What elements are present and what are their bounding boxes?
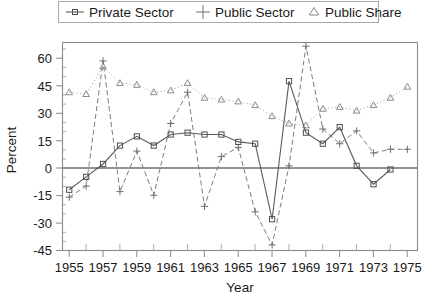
data-point <box>167 120 174 127</box>
x-tick-label-1971: 1971 <box>325 260 354 275</box>
data-point <box>83 182 90 189</box>
x-tick-label-1955: 1955 <box>55 260 84 275</box>
data-point <box>387 146 394 153</box>
data-point <box>116 188 123 195</box>
data-point <box>133 148 140 155</box>
data-point <box>404 146 411 153</box>
data-point <box>302 43 309 50</box>
data-point <box>201 203 208 210</box>
data-point <box>167 87 174 93</box>
series-share-line <box>69 66 407 125</box>
data-point <box>184 80 191 86</box>
data-point <box>66 194 73 201</box>
data-point <box>269 241 276 248</box>
data-point <box>150 192 157 199</box>
chart-canvas: Private Sector Public Sector Public Shar… <box>0 0 438 298</box>
y-tick-label-60: 60 <box>38 51 52 66</box>
y-tick-label-30: 30 <box>38 106 52 121</box>
data-point <box>218 153 225 160</box>
x-axis-title: Year <box>226 280 254 295</box>
data-point <box>252 102 259 108</box>
plot-frame <box>63 43 418 251</box>
x-tick-label-1961: 1961 <box>156 260 185 275</box>
data-point <box>99 57 106 64</box>
y-tick-label-15: 15 <box>38 134 52 149</box>
x-minor-ticks <box>86 244 390 251</box>
y-tick-label-neg15: -15 <box>33 188 52 203</box>
legend-label-public-sector: Public Sector <box>215 5 295 20</box>
y-axis: 60 45 30 15 0 -15 -30 -45 Percent <box>4 49 66 258</box>
series-private-line <box>69 81 390 219</box>
y-tick-label-neg45: -45 <box>33 243 52 258</box>
x-tick-label-1965: 1965 <box>224 260 253 275</box>
x-tick-label-1957: 1957 <box>89 260 118 275</box>
chart-figure: Private Sector Public Sector Public Shar… <box>0 0 438 298</box>
x-tick-label-1969: 1969 <box>291 260 320 275</box>
x-ticks <box>69 251 407 258</box>
legend-label-private-sector: Private Sector <box>89 5 174 20</box>
x-tick-label-1959: 1959 <box>122 260 151 275</box>
x-tick-label-1963: 1963 <box>190 260 219 275</box>
data-point <box>66 89 73 95</box>
y-ticks <box>56 58 63 250</box>
data-point <box>218 96 225 102</box>
y-axis-title: Percent <box>4 126 19 173</box>
series-private-sector <box>67 79 393 222</box>
x-axis: 1955 1957 1959 1961 1963 1965 1967 1969 … <box>55 244 422 295</box>
y-tick-label-neg30: -30 <box>33 216 52 231</box>
data-point <box>184 89 191 96</box>
legend-label-public-share: Public Share <box>325 5 402 20</box>
series-public-share <box>66 63 411 128</box>
y-tick-label-0: 0 <box>45 161 52 176</box>
data-point <box>404 83 411 89</box>
x-tick-label-1973: 1973 <box>359 260 388 275</box>
y-tick-label-45: 45 <box>38 79 52 94</box>
chart-legend: Private Sector Public Sector Public Shar… <box>59 2 402 23</box>
x-tick-label-1975: 1975 <box>393 260 422 275</box>
x-tick-label-1967: 1967 <box>258 260 287 275</box>
data-point <box>252 208 259 215</box>
